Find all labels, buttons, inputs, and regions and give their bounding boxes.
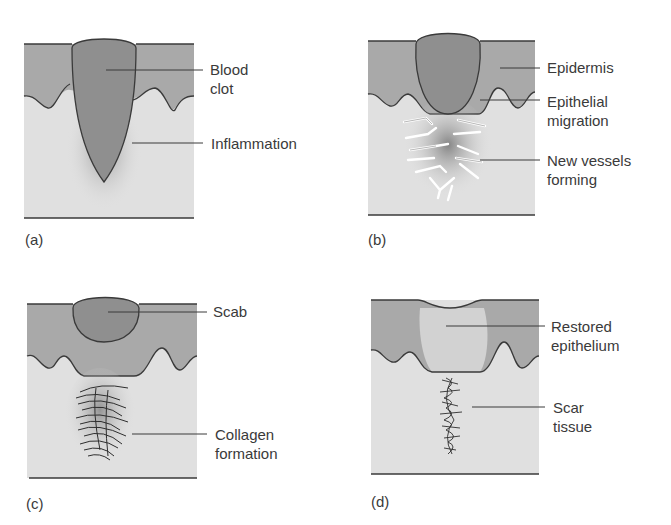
panel-tag-b: (b) <box>368 231 386 248</box>
label-inflammation: Inflammation <box>211 134 297 153</box>
panel-tag-c: (c) <box>26 495 44 512</box>
label-scar-tissue: Scar tissue <box>553 398 592 436</box>
label-restored-epithelium: Restored epithelium <box>551 317 619 355</box>
panel-d: Restored epithelium Scar tissue (d) <box>340 260 671 525</box>
label-epidermis: Epidermis <box>547 58 614 77</box>
panel-a: Blood clot Inflammation (a) <box>0 0 340 260</box>
label-epithelial-migration: Epithelial migration <box>547 92 609 130</box>
panel-b: Epidermis Epithelial migration New vesse… <box>340 0 671 260</box>
label-new-vessels-forming: New vessels forming <box>547 151 631 189</box>
panel-d-illustration <box>340 260 671 525</box>
panel-a-illustration <box>0 0 340 260</box>
label-collagen-formation: Collagen formation <box>215 425 278 463</box>
label-scab: Scab <box>213 302 247 321</box>
panel-tag-a: (a) <box>25 231 43 248</box>
label-blood-clot: Blood clot <box>210 60 248 98</box>
panel-tag-d: (d) <box>371 493 389 510</box>
panel-c: Scab Collagen formation (c) <box>0 260 340 525</box>
panel-b-illustration <box>340 0 671 260</box>
panel-c-illustration <box>0 260 340 525</box>
